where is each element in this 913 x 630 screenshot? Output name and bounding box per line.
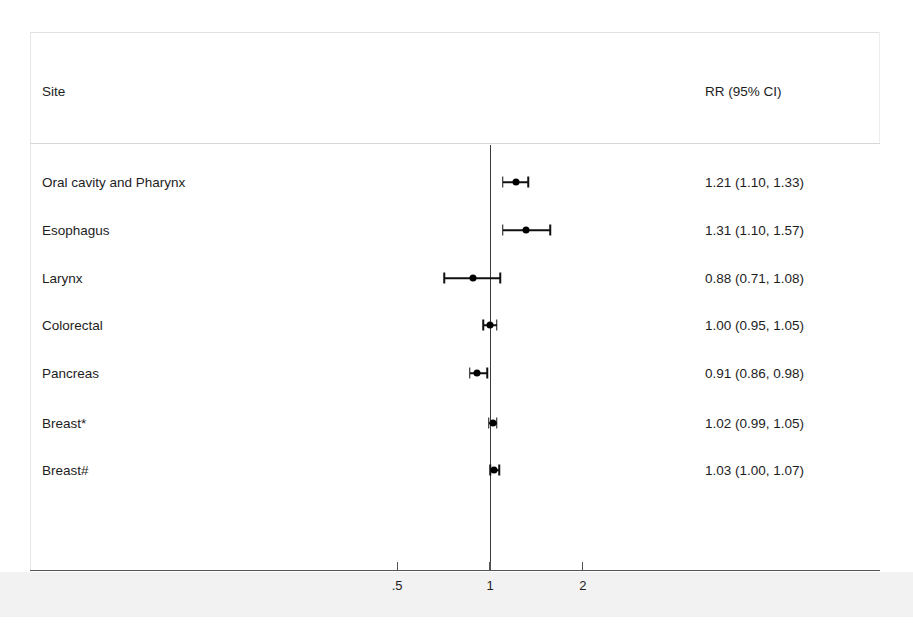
row-label: Colorectal (42, 318, 103, 333)
point-estimate-marker (487, 322, 494, 329)
point-estimate-marker (469, 275, 476, 282)
point-estimate-marker (489, 420, 496, 427)
row-estimate-text: 1.00 (0.95, 1.05) (705, 318, 804, 333)
x-axis-tick-label-p5: .5 (392, 578, 403, 593)
row-label: Breast# (42, 463, 89, 478)
point-estimate-marker (512, 179, 519, 186)
row-label: Breast* (42, 416, 86, 431)
row-estimate-text: 1.21 (1.10, 1.33) (705, 175, 804, 190)
row-label: Pancreas (42, 366, 99, 381)
row-estimate-text: 1.02 (0.99, 1.05) (705, 416, 804, 431)
frame-left-border (30, 32, 31, 570)
row-label: Esophagus (42, 223, 110, 238)
x-axis-tick-2 (582, 562, 583, 571)
column-header-estimate: RR (95% CI) (705, 84, 782, 99)
point-estimate-marker (474, 370, 481, 377)
axis-background-band (0, 572, 913, 617)
row-estimate-text: 0.88 (0.71, 1.08) (705, 271, 804, 286)
column-header-site: Site (42, 84, 65, 99)
ci-lower-cap (469, 368, 471, 379)
header-divider (30, 143, 880, 144)
frame-right-border (879, 32, 880, 144)
ci-upper-cap (498, 465, 500, 476)
ci-lower-cap (482, 320, 484, 331)
x-axis-tick-label-1: 1 (486, 578, 493, 593)
point-estimate-marker (490, 467, 497, 474)
ci-upper-cap (527, 177, 529, 188)
ci-lower-cap (502, 225, 504, 236)
ci-upper-cap (500, 273, 502, 284)
ci-lower-cap (502, 177, 504, 188)
forest-plot-figure: Site RR (95% CI) .512 Oral cavity and Ph… (0, 0, 913, 630)
frame-top-border (30, 32, 880, 33)
x-axis-tick-label-2: 2 (579, 578, 586, 593)
row-estimate-text: 1.03 (1.00, 1.07) (705, 463, 804, 478)
ci-upper-cap (487, 368, 489, 379)
row-label: Larynx (42, 271, 83, 286)
row-estimate-text: 1.31 (1.10, 1.57) (705, 223, 804, 238)
row-estimate-text: 0.91 (0.86, 0.98) (705, 366, 804, 381)
null-reference-line (490, 145, 491, 570)
ci-upper-cap (550, 225, 552, 236)
x-axis-line (30, 570, 880, 571)
x-axis-tick-1 (489, 562, 490, 571)
ci-upper-cap (496, 320, 498, 331)
point-estimate-marker (523, 227, 530, 234)
ci-lower-cap (443, 273, 445, 284)
row-label: Oral cavity and Pharynx (42, 175, 185, 190)
x-axis-tick-p5 (397, 562, 398, 571)
